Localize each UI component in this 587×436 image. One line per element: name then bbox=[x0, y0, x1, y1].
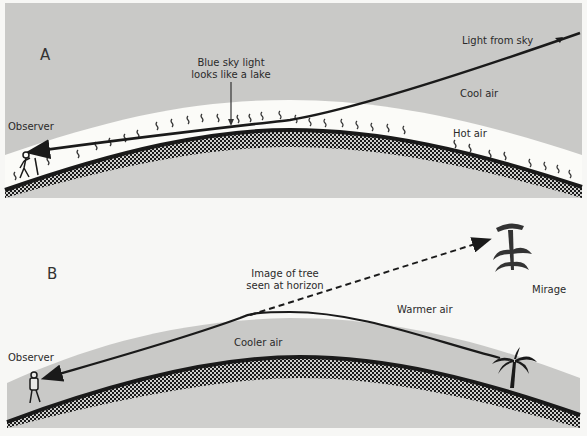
panel-a: A Observer Blue sky light looks like a l… bbox=[5, 3, 582, 198]
blue-sky-label-2: looks like a lake bbox=[191, 69, 270, 80]
hot-air-label: Hot air bbox=[453, 128, 488, 139]
image-of-tree-label-1: Image of tree bbox=[251, 268, 318, 279]
panel-b-letter: B bbox=[47, 265, 57, 283]
mirage-diagram: A Observer Blue sky light looks like a l… bbox=[0, 0, 587, 436]
cooler-air-label: Cooler air bbox=[234, 337, 283, 348]
image-of-tree-label-2: seen at horizon bbox=[246, 280, 323, 291]
light-from-sky-label: Light from sky bbox=[462, 35, 533, 46]
warmer-air-label: Warmer air bbox=[397, 304, 453, 315]
panel-b-observer-label: Observer bbox=[8, 352, 55, 363]
panel-a-observer-label: Observer bbox=[8, 121, 55, 132]
mirage-label: Mirage bbox=[532, 284, 566, 295]
panel-a-letter: A bbox=[40, 46, 51, 64]
blue-sky-label-1: Blue sky light bbox=[197, 57, 264, 68]
cool-air-label: Cool air bbox=[460, 88, 499, 99]
mirage-tree-icon bbox=[493, 223, 532, 272]
panel-b: B Observer Image of tree seen at horizon… bbox=[7, 223, 580, 428]
